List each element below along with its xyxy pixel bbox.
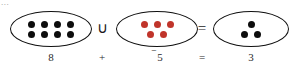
counter-dot-black [254,31,261,38]
counter-dot-black [241,31,248,38]
counter-group-first [10,11,92,47]
counter-row [241,31,261,38]
counter-row [147,31,167,38]
counter-dot-red [147,31,154,38]
counter-dot-black [67,21,74,28]
counter-dot-red [154,21,161,28]
set-diagram-row: ∪ = [0,8,291,50]
counter-row [248,21,255,28]
counter-grid-first [11,12,91,46]
label-second-addend: ⁻5 [116,50,198,64]
counter-dot-black [54,31,61,38]
counter-dot-black [67,31,74,38]
label-first-addend: 8 [10,50,92,64]
counter-dot-red [160,31,167,38]
counter-dot-black [28,21,35,28]
equation-label-row: 8 + ⁻5 = 3 [0,50,291,65]
counter-dot-black [28,31,35,38]
corner-mark-text: ... [1,0,9,7]
counter-dot-red [141,21,148,28]
counter-grid-second [117,12,197,46]
counter-group-second [116,11,198,47]
counter-dot-black [41,31,48,38]
counter-row [28,21,74,28]
integer-counters-figure: ... ∪ [0,0,291,65]
counter-dot-red [167,21,174,28]
union-operator-icon: ∪ [92,18,112,38]
equals-operator-icon: = [192,18,212,38]
counter-grid-result [214,12,288,46]
label-sum: 3 [213,50,289,64]
label-equals-operator: = [192,50,212,64]
label-second-addend-value: 5 [157,51,163,63]
counter-dot-black [248,21,255,28]
counter-group-result [213,11,289,47]
counter-dot-black [54,21,61,28]
label-plus-operator: + [92,50,112,64]
counter-dot-black [41,21,48,28]
counter-row [28,31,74,38]
counter-row [141,21,174,28]
